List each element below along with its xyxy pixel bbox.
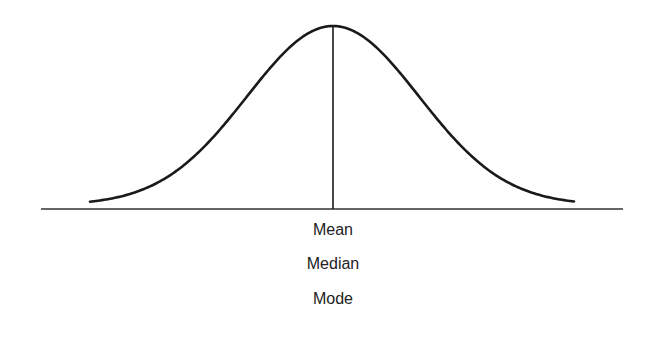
bell-curve xyxy=(90,26,574,202)
median-label: Median xyxy=(307,255,359,273)
mean-label: Mean xyxy=(313,221,353,239)
mode-label: Mode xyxy=(313,290,353,308)
